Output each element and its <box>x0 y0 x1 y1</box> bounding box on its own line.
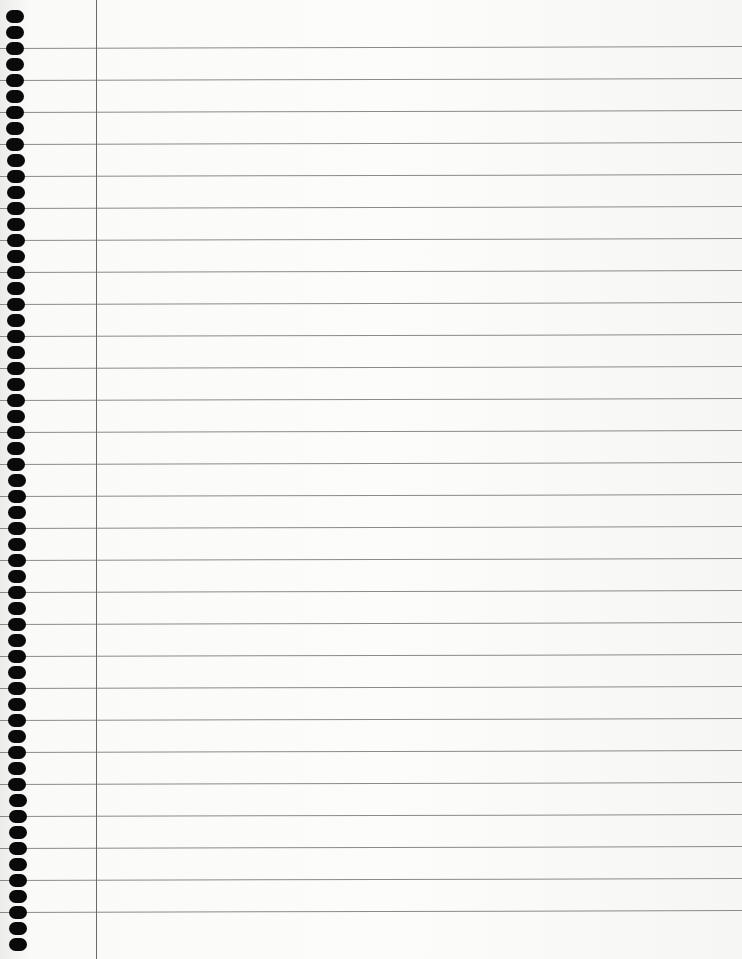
binder-hole-icon <box>7 442 25 455</box>
notebook-page <box>0 0 742 959</box>
binder-hole-icon <box>8 714 26 727</box>
rule-line <box>0 174 742 177</box>
rule-line <box>0 654 742 657</box>
binder-hole-icon <box>9 890 27 903</box>
binder-hole-icon <box>7 266 25 279</box>
binder-hole-icon <box>8 490 26 503</box>
rule-line <box>0 686 742 689</box>
binder-hole-icon <box>8 538 26 551</box>
binder-hole-icon <box>6 26 24 39</box>
rule-line <box>0 910 742 913</box>
binder-hole-icon <box>7 186 25 199</box>
binder-hole-icon <box>7 346 25 359</box>
binder-hole-icon <box>7 218 25 231</box>
binder-hole-icon <box>8 762 26 775</box>
binder-hole-icon <box>8 666 26 679</box>
rule-line <box>0 302 742 305</box>
binder-hole-icon <box>6 90 24 103</box>
rule-line <box>0 334 742 337</box>
binder-hole-icon <box>9 858 27 871</box>
binder-hole-icon <box>8 778 26 791</box>
rule-line <box>0 78 742 81</box>
rule-line <box>0 366 742 369</box>
binder-hole-icon <box>9 906 27 919</box>
binder-hole-icon <box>9 826 27 839</box>
rule-line <box>0 590 742 593</box>
rule-line <box>0 782 742 785</box>
rule-line <box>0 430 742 433</box>
rule-line <box>0 846 742 849</box>
binder-hole-icon <box>7 234 25 247</box>
binder-hole-icon <box>8 554 26 567</box>
binder-hole-icon <box>6 106 24 119</box>
binder-hole-icon <box>7 410 25 423</box>
rule-line <box>0 750 742 753</box>
rule-line <box>0 878 742 881</box>
rule-line <box>0 558 742 561</box>
rule-line <box>0 398 742 401</box>
binder-hole-icon <box>8 602 26 615</box>
binder-hole-icon <box>7 250 25 263</box>
binder-hole-icon <box>8 586 26 599</box>
rule-line <box>0 526 742 529</box>
binder-hole-icon <box>8 730 26 743</box>
binder-hole-icon <box>7 378 25 391</box>
rule-line <box>0 238 742 241</box>
binder-hole-icon <box>7 362 25 375</box>
binder-hole-icon <box>8 682 26 695</box>
binder-hole-icon <box>8 474 26 487</box>
binder-hole-icon <box>8 570 26 583</box>
binder-hole-icon <box>7 330 25 343</box>
binder-hole-icon <box>7 458 25 471</box>
binder-hole-icon <box>7 394 25 407</box>
binder-hole-icon <box>8 618 26 631</box>
binder-hole-icon <box>8 634 26 647</box>
rule-line <box>0 462 742 465</box>
binder-hole-icon <box>7 298 25 311</box>
binder-hole-icon <box>8 506 26 519</box>
binder-hole-icon <box>6 42 24 55</box>
binder-hole-icon <box>7 314 25 327</box>
binder-hole-icon <box>8 698 26 711</box>
margin-line <box>96 0 97 959</box>
binder-hole-icon <box>7 202 25 215</box>
binder-hole-icon <box>8 650 26 663</box>
binder-hole-icon <box>6 58 24 71</box>
binder-hole-icon <box>6 74 24 87</box>
binder-hole-icon <box>7 154 25 167</box>
rule-line <box>0 142 742 145</box>
rule-line <box>0 110 742 113</box>
binder-hole-icon <box>9 938 27 951</box>
binder-hole-icon <box>9 842 27 855</box>
rule-line <box>0 718 742 721</box>
binder-hole-icon <box>8 522 26 535</box>
binder-hole-icon <box>9 874 27 887</box>
binder-hole-icon <box>8 746 26 759</box>
binder-hole-icon <box>6 10 24 23</box>
rule-line <box>0 814 742 817</box>
binder-hole-icon <box>6 138 24 151</box>
binder-hole-icon <box>7 426 25 439</box>
rule-line <box>0 494 742 497</box>
binder-hole-icon <box>6 122 24 135</box>
rule-line <box>0 206 742 209</box>
binder-hole-icon <box>7 282 25 295</box>
rule-line <box>0 46 742 49</box>
binder-hole-icon <box>9 810 27 823</box>
binder-hole-icon <box>9 922 27 935</box>
binder-hole-icon <box>9 794 27 807</box>
binder-hole-icon <box>7 170 25 183</box>
rule-line <box>0 622 742 625</box>
rule-line <box>0 270 742 273</box>
